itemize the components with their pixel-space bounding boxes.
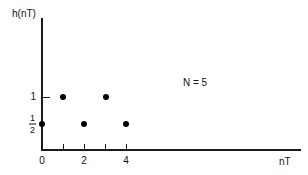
y-tick-label-half: 1 2	[22, 114, 36, 135]
y-axis-line	[41, 18, 43, 151]
y-tick-label-one: 1	[22, 92, 36, 102]
x-tick-label-4: 4	[123, 156, 129, 166]
x-tick-2	[84, 144, 85, 149]
x-axis-line	[41, 149, 301, 151]
chart-figure: h(nT) nT N = 5 0 2 4 1 1 2	[0, 0, 308, 175]
y-axis-label: h(nT)	[12, 9, 36, 19]
x-tick-label-0: 0	[39, 156, 45, 166]
x-tick-1	[63, 144, 64, 149]
chart-annotation: N = 5	[183, 78, 207, 88]
x-tick-4	[126, 144, 127, 149]
data-point	[103, 94, 109, 100]
x-axis-label: nT	[279, 157, 291, 167]
fraction-numerator: 1	[29, 114, 36, 125]
y-tick-one	[43, 97, 50, 98]
x-tick-0	[42, 144, 43, 149]
fraction-denominator: 2	[29, 125, 36, 135]
data-point	[39, 121, 45, 127]
x-tick-3	[105, 144, 106, 149]
fraction-one-half: 1 2	[29, 114, 36, 135]
x-tick-label-2: 2	[81, 156, 87, 166]
data-point	[81, 121, 87, 127]
data-point	[60, 94, 66, 100]
data-point	[123, 121, 129, 127]
